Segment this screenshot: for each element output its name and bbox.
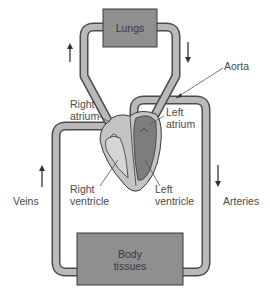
arteries-label: Arteries (223, 195, 259, 207)
left-atrium-label-line2: atrium (166, 118, 195, 130)
aorta-leader (176, 68, 223, 98)
lungs-label: Lungs (103, 22, 157, 34)
heart (100, 111, 161, 191)
veins-label: Veins (13, 195, 39, 207)
arrow-down-pulmonary (185, 42, 191, 63)
body-tissues-label-line1: Body (77, 248, 183, 260)
arrow-up-pulmonary (67, 43, 73, 62)
right-atrium-label: Right atrium (70, 98, 99, 122)
aorta-label: Aorta (224, 60, 249, 72)
right-ventricle-label-line1: Right (70, 183, 109, 195)
left-ventricle-label-line2: ventricle (155, 195, 194, 207)
left-ventricle-label-line1: Left (155, 183, 194, 195)
right-atrium-label-line1: Right (70, 98, 99, 110)
body-tissues-label-line2: tissues (77, 260, 183, 272)
left-ventricle-label: Left ventricle (155, 183, 194, 207)
right-atrium-label-line2: atrium (70, 110, 99, 122)
left-atrium-label: Left atrium (166, 106, 195, 130)
arrow-down-arteries (215, 165, 221, 187)
body-tissues-label: Body tissues (77, 248, 183, 272)
left-atrium-label-line1: Left (166, 106, 195, 118)
right-ventricle-label: Right ventricle (70, 183, 109, 207)
arrow-up-veins (39, 165, 45, 187)
right-ventricle-label-line2: ventricle (70, 195, 109, 207)
